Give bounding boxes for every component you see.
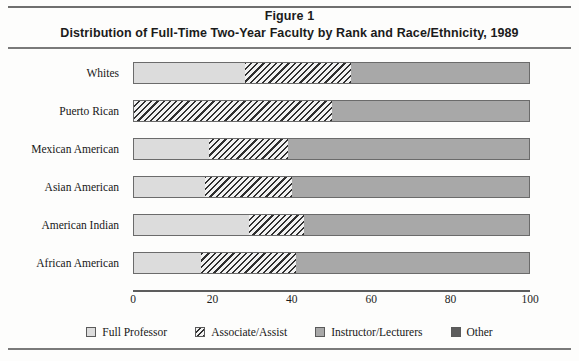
legend-swatch-full-professor [86, 327, 96, 337]
bar-segment-instructor [332, 101, 530, 121]
bar-segment-full-professor [134, 253, 201, 273]
plot-area [133, 60, 530, 289]
y-axis-label: Whites [86, 62, 119, 84]
x-axis-tick: 100 [521, 293, 538, 305]
bar-row [133, 252, 530, 274]
bar-segment-associate [134, 101, 332, 121]
bar-row [133, 100, 530, 122]
y-axis-label: Mexican American [31, 138, 119, 160]
bar-segment-full-professor [134, 139, 209, 159]
y-axis-label: Asian American [45, 176, 119, 198]
legend-item[interactable]: Other [451, 326, 493, 338]
figure-container: Figure 1 Distribution of Full-Time Two-Y… [0, 0, 579, 361]
title-divider-rule [8, 47, 571, 49]
bottom-rule [8, 348, 571, 350]
bar-row [133, 138, 530, 160]
figure-number: Figure 1 [0, 8, 579, 25]
bar-segment-full-professor [134, 63, 245, 83]
y-axis-category-labels: WhitesPuerto RicanMexican AmericanAsian … [0, 60, 127, 289]
bar-segment-instructor [292, 177, 529, 197]
y-axis-label: African American [36, 252, 119, 274]
bar-segment-associate [205, 177, 292, 197]
x-axis-tick: 60 [365, 293, 377, 305]
bar-row [133, 214, 530, 236]
bar-segment-full-professor [134, 177, 205, 197]
legend-swatch-other [451, 327, 461, 337]
legend-label: Other [467, 326, 493, 338]
legend-swatch-associate [195, 327, 205, 337]
bar-segment-associate [209, 139, 288, 159]
legend-item[interactable]: Associate/Assist [195, 326, 287, 338]
legend-swatch-instructor [315, 327, 325, 337]
legend-label: Associate/Assist [211, 326, 287, 338]
legend-label: Instructor/Lecturers [331, 326, 422, 338]
x-axis-tick: 80 [445, 293, 457, 305]
bar-row [133, 176, 530, 198]
figure-title-block: Figure 1 Distribution of Full-Time Two-Y… [0, 8, 579, 42]
bar-segment-instructor [304, 215, 529, 235]
legend-item[interactable]: Instructor/Lecturers [315, 326, 422, 338]
bar-segment-associate [245, 63, 352, 83]
x-axis-tick: 0 [130, 293, 136, 305]
bar-segment-instructor [351, 63, 529, 83]
x-axis-tick: 40 [286, 293, 298, 305]
bar-segment-associate [249, 215, 304, 235]
x-axis-line [133, 290, 530, 292]
bar-segment-full-professor [134, 215, 249, 235]
x-axis-tick-labels: 020406080100 [133, 293, 530, 309]
bar-segment-instructor [288, 139, 529, 159]
y-axis-label: American Indian [41, 214, 119, 236]
bar-segment-associate [201, 253, 296, 273]
y-axis-label: Puerto Rican [59, 100, 119, 122]
page-title: Distribution of Full-Time Two-Year Facul… [0, 25, 579, 42]
bar-row [133, 62, 530, 84]
x-axis-tick: 20 [207, 293, 219, 305]
legend-item[interactable]: Full Professor [86, 326, 167, 338]
legend-label: Full Professor [102, 326, 167, 338]
chart-legend: Full ProfessorAssociate/AssistInstructor… [0, 322, 579, 342]
bar-segment-instructor [296, 253, 529, 273]
